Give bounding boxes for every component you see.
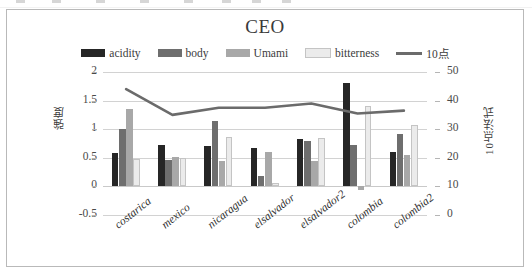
toolbar-glyph [184, 0, 193, 3]
plot-area [103, 72, 427, 215]
y-tick-mark-left [92, 186, 97, 187]
y-tick-mark-left [92, 101, 97, 102]
y-axis-title-right: 10点法式 [481, 106, 497, 155]
y-tick-label-left: 1.5 [83, 93, 97, 105]
y-tick-mark-right [435, 215, 440, 216]
y-tick-label-right: 40 [447, 93, 459, 105]
legend-item-acidity[interactable]: acidity [81, 47, 140, 59]
legend-item-label: acidity [109, 47, 140, 59]
legend-item-label: Umami [254, 47, 289, 59]
legend-item-label: body [186, 47, 209, 59]
line-series-10ten[interactable] [103, 72, 427, 215]
legend-item-10点[interactable]: 10点 [396, 45, 449, 61]
y-tick-mark-left [92, 215, 97, 216]
toolbar-glyph [140, 0, 149, 3]
y-tick-mark-right [435, 158, 440, 159]
legend-line-marker [396, 52, 422, 55]
legend-item-umami[interactable]: Umami [226, 47, 289, 59]
toolbar-glyph [222, 0, 231, 3]
legend-color-swatch [305, 48, 331, 58]
legend-item-body[interactable]: body [158, 47, 209, 59]
y-tick-label-left: 0.5 [83, 150, 97, 162]
toolbar-glyph [96, 0, 105, 3]
y-tick-label-left: -0.5 [79, 207, 97, 219]
chart-legend: aciditybodyUmamibitterness10点 [7, 45, 523, 61]
legend-item-label: bitterness [335, 47, 379, 59]
y-tick-label-left: 2 [91, 64, 97, 76]
y-tick-label-right: 20 [447, 150, 459, 162]
y-tick-label-left: 0 [91, 178, 97, 190]
y-tick-mark-left [92, 72, 97, 73]
y-tick-mark-right [435, 72, 440, 73]
line-path [126, 89, 404, 115]
y-tick-label-left: 1 [91, 121, 97, 133]
y-tick-mark-left [92, 129, 97, 130]
legend-item-label: 10点 [426, 45, 449, 61]
chart-title: CEO [7, 16, 523, 38]
legend-color-swatch [226, 49, 250, 57]
y-axis-ticks-right: 50403020100 [435, 72, 469, 215]
toolbar-glyph [52, 0, 61, 3]
x-axis-category-labels: costaricamexiconicaraguaelsalvadorelsalv… [103, 215, 427, 275]
y-tick-label-right: 50 [447, 64, 459, 76]
y-tick-label-right: 0 [447, 207, 453, 219]
truncated-toolbar-strip [0, 0, 532, 8]
legend-color-swatch [158, 49, 182, 57]
y-tick-mark-right [435, 101, 440, 102]
y-tick-mark-left [92, 158, 97, 159]
y-tick-label-right: 10 [447, 178, 459, 190]
legend-item-bitterness[interactable]: bitterness [305, 47, 379, 59]
toolbar-glyph [16, 0, 25, 3]
toolbar-glyph [282, 0, 291, 3]
y-tick-label-right: 30 [447, 121, 459, 133]
y-tick-mark-right [435, 186, 440, 187]
y-axis-ticks-left: 21.510.50-0.5 [63, 72, 97, 215]
toolbar-glyph [252, 0, 261, 3]
legend-color-swatch [81, 49, 105, 57]
chart-container[interactable]: CEO aciditybodyUmamibitterness10点 強度 10点… [6, 9, 524, 267]
screenshot-root: CEO aciditybodyUmamibitterness10点 強度 10点… [0, 0, 532, 278]
y-tick-mark-right [435, 129, 440, 130]
